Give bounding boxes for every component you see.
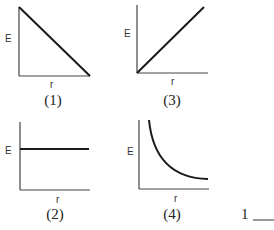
graph-2-caption: (2) bbox=[46, 206, 64, 223]
graph-3-y-label: E bbox=[124, 28, 131, 39]
graph-4-y-label: E bbox=[127, 146, 134, 157]
question-number: 1 bbox=[241, 206, 249, 222]
graph-4-caption: (4) bbox=[163, 206, 181, 223]
graph-3-curve bbox=[137, 7, 204, 73]
graph-2-x-label: r bbox=[56, 194, 60, 205]
graph-3-caption: (3) bbox=[163, 92, 181, 109]
graph-2: E r (2) bbox=[5, 122, 90, 223]
graph-1-curve bbox=[19, 7, 90, 76]
graph-4: E r (4) bbox=[127, 120, 209, 223]
graph-3: E r (3) bbox=[124, 5, 208, 109]
graph-1: E r (1) bbox=[5, 7, 90, 109]
graph-4-curve bbox=[149, 120, 208, 179]
graph-1-y-label: E bbox=[5, 33, 12, 44]
graph-4-x-label: r bbox=[174, 193, 178, 204]
answer-field[interactable]: 1 bbox=[241, 206, 274, 222]
graph-choices-diagram: E r (1) E r (3) E r (2) E r (4) 1 bbox=[0, 0, 274, 230]
graph-1-x-label: r bbox=[50, 79, 54, 90]
graph-2-y-label: E bbox=[5, 145, 12, 156]
graph-3-x-label: r bbox=[171, 76, 175, 87]
graph-1-caption: (1) bbox=[44, 92, 62, 109]
